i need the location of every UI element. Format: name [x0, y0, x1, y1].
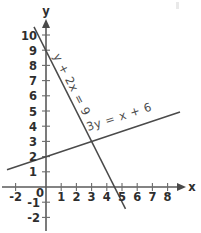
x-tick-label-7: 7: [148, 190, 156, 204]
y-tick-label-3: 3: [29, 135, 37, 149]
y-tick-label-6: 6: [29, 89, 37, 103]
y-tick-label-4: 4: [29, 120, 37, 134]
y-tick-label--2: -2: [27, 211, 40, 225]
x-tick-label-8: 8: [164, 190, 172, 204]
y-tick-label-2: 2: [29, 150, 37, 164]
paper-smudge: [176, 2, 179, 9]
x-tick-label-4: 4: [103, 190, 111, 204]
y-tick-label-10: 10: [21, 29, 37, 43]
y-tick-label--1: -1: [27, 196, 40, 210]
y-axis-arrow-icon: [42, 19, 50, 28]
x-tick-label--2: -2: [9, 190, 22, 204]
y-tick-label-8: 8: [29, 59, 37, 73]
x-tick-label-3: 3: [88, 190, 96, 204]
x-axis-arrow-icon: [177, 183, 186, 191]
equation-label-line-2: 3y = x + 6: [85, 99, 154, 133]
x-tick-label-6: 6: [133, 190, 141, 204]
x-tick-label-5: 5: [118, 190, 126, 204]
y-tick-label-7: 7: [29, 74, 37, 88]
y-axis-label: y: [42, 4, 50, 18]
coordinate-graph-figure: -2 1 2 3 4 5 6 7 8 0 10 9 8 7 6 5 4 3 2 …: [0, 0, 201, 233]
y-tick-label-9: 9: [29, 44, 37, 58]
y-tick-label-5: 5: [29, 105, 37, 119]
graph-canvas: -2 1 2 3 4 5 6 7 8 0 10 9 8 7 6 5 4 3 2 …: [0, 0, 201, 233]
equation-label-line-1: y + 2x = 9: [50, 51, 93, 118]
x-axis-label: x: [188, 180, 196, 194]
x-tick-label-1: 1: [57, 190, 65, 204]
y-tick-label-1: 1: [29, 165, 37, 179]
x-tick-label-2: 2: [72, 190, 80, 204]
